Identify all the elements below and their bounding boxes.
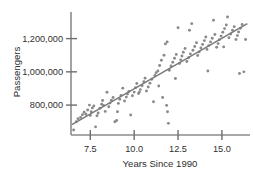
data-point — [112, 96, 115, 99]
data-point — [177, 26, 180, 29]
data-point — [158, 64, 161, 67]
data-point — [196, 54, 199, 57]
data-point — [88, 104, 91, 107]
data-point — [235, 38, 238, 41]
data-point — [184, 47, 187, 50]
x-tick-label: 12.5 — [169, 144, 187, 154]
data-point — [206, 70, 209, 73]
data-point — [163, 54, 166, 57]
data-point — [223, 27, 226, 30]
data-point — [166, 110, 169, 113]
data-point — [104, 110, 107, 113]
data-point — [96, 114, 99, 117]
x-axis-tick-labels: 7.510.012.515.0 — [84, 144, 231, 154]
data-point — [123, 99, 126, 102]
data-point — [147, 86, 150, 89]
data-point — [236, 34, 239, 37]
data-point — [180, 55, 183, 58]
y-axis-title: Passengers — [11, 46, 22, 97]
data-point — [157, 85, 160, 88]
data-point — [115, 119, 118, 122]
data-point — [135, 82, 138, 85]
data-point — [233, 25, 236, 28]
scatter-plot-figure: 800,0001,000,0001,200,000 7.510.012.515.… — [0, 0, 253, 172]
x-axis-title: Years Since 1990 — [123, 158, 198, 169]
data-point — [220, 35, 223, 38]
data-point — [81, 113, 84, 116]
data-point — [171, 61, 174, 64]
y-tick-label: 1,000,000 — [22, 67, 63, 77]
data-point — [117, 102, 120, 105]
data-point — [116, 110, 119, 113]
data-point — [166, 40, 169, 43]
data-point — [237, 31, 240, 34]
data-point — [175, 53, 178, 56]
data-point — [204, 35, 207, 38]
data-point — [133, 91, 136, 94]
data-point — [188, 29, 191, 32]
data-point — [161, 96, 164, 99]
data-point — [131, 94, 134, 97]
data-point — [101, 99, 104, 102]
data-point — [167, 122, 170, 125]
data-point — [152, 100, 155, 103]
data-point — [244, 38, 247, 41]
data-point — [222, 45, 225, 48]
data-point — [217, 42, 220, 45]
data-point — [160, 59, 163, 62]
data-point — [144, 77, 147, 80]
x-tick-label: 10.0 — [125, 144, 143, 154]
data-point — [107, 105, 110, 108]
data-point — [106, 91, 109, 94]
data-point — [125, 96, 128, 99]
data-point — [201, 43, 204, 46]
regression-trendline — [72, 24, 247, 125]
data-point — [182, 51, 185, 54]
data-point — [209, 40, 212, 43]
data-point — [193, 45, 196, 48]
data-point — [195, 41, 198, 44]
y-axis-tick-labels: 800,0001,000,0001,200,000 — [22, 34, 63, 110]
data-point — [138, 91, 141, 94]
data-point — [226, 16, 229, 19]
data-point — [129, 114, 132, 117]
data-point — [121, 87, 124, 90]
data-point — [97, 112, 100, 115]
data-point — [221, 31, 224, 34]
data-point — [72, 129, 75, 132]
data-point — [215, 46, 218, 49]
data-point — [227, 36, 230, 39]
data-point — [238, 72, 241, 75]
data-point — [173, 57, 176, 60]
data-point — [190, 22, 193, 25]
x-tick-label: 7.5 — [84, 144, 97, 154]
data-point — [149, 82, 152, 85]
x-tick-label: 15.0 — [213, 144, 231, 154]
data-point — [94, 125, 97, 128]
data-point — [212, 19, 215, 22]
data-point — [174, 77, 177, 80]
data-point — [156, 70, 159, 73]
data-point — [242, 70, 245, 73]
data-point — [92, 104, 95, 107]
data-point — [86, 109, 89, 112]
plot-canvas: 800,0001,000,0001,200,000 7.510.012.515.… — [0, 0, 253, 172]
data-point — [206, 48, 209, 51]
data-point — [165, 104, 168, 107]
y-tick-label: 800,000 — [30, 100, 63, 110]
data-point — [189, 52, 192, 55]
data-point — [192, 49, 195, 52]
data-point — [203, 39, 206, 42]
data-point — [213, 33, 216, 36]
data-point — [211, 37, 214, 40]
data-point — [139, 88, 142, 91]
data-point — [185, 60, 188, 63]
data-point — [225, 24, 228, 27]
y-tick-label: 1,200,000 — [22, 34, 63, 44]
data-point — [145, 90, 148, 93]
